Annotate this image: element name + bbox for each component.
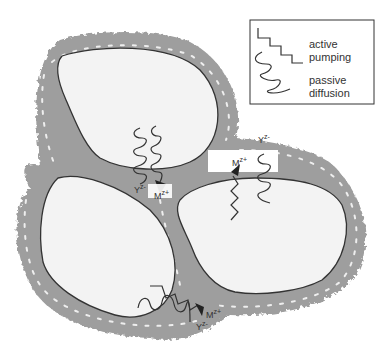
legend-label-pumping: pumping xyxy=(309,51,351,63)
legend-label-passive: passive xyxy=(309,74,346,86)
legend-label-diffusion: diffusion xyxy=(309,87,350,99)
plant-cell-diagram: active pumping passive diffusion Yz- Mz+… xyxy=(0,0,386,354)
legend-label-active: active xyxy=(309,38,338,50)
legend: active pumping passive diffusion xyxy=(250,20,374,104)
